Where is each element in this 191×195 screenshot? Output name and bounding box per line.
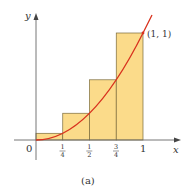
svg-text:4: 4 [114,151,118,159]
tick-1: 1 [140,143,146,154]
origin-label: 0 [26,143,32,154]
point-label: (1, 1) [147,29,171,39]
svg-text:1: 1 [87,143,91,151]
tick-1-2: 1 2 [86,143,92,159]
y-axis-arrow-icon [34,13,39,20]
figure-caption: (a) [81,175,95,186]
x-axis-arrow-icon [174,138,181,143]
rectangles [36,33,143,140]
rect-4 [116,33,143,140]
tick-1-4: 1 4 [60,143,66,159]
tick-3-4: 3 4 [113,143,119,159]
svg-text:2: 2 [87,151,91,159]
y-axis-label: y [24,10,31,21]
svg-text:3: 3 [114,143,118,151]
riemann-sum-diagram: y x 0 (1, 1) 1 4 1 2 3 4 1 (a) [0,0,191,195]
x-axis-label: x [173,144,179,155]
point-1-1 [142,32,145,35]
svg-text:4: 4 [61,151,65,159]
svg-text:1: 1 [61,143,65,151]
